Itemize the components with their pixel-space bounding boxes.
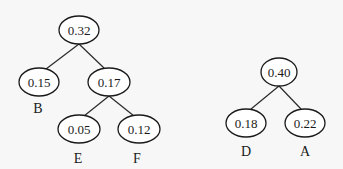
tree-2-edges [251, 86, 301, 109]
node-value: 0.22 [294, 116, 317, 131]
node-value: 0.32 [68, 23, 91, 38]
leaf-symbol-e: E [74, 151, 83, 166]
huffman-forest-diagram: 0.32 0.15 B 0.17 0.05 E 0.12 F 0.40 [0, 0, 343, 169]
edge-017-005 [84, 96, 109, 116]
node-value: 0.05 [68, 122, 91, 137]
node-value: 0.40 [268, 65, 291, 80]
edge-040-018 [251, 86, 279, 109]
edge-017-012 [109, 96, 134, 116]
node-005: 0.05 E [58, 115, 100, 166]
tree-2: 0.40 0.18 D 0.22 A [226, 58, 325, 159]
edge-032-015 [46, 44, 79, 69]
node-value: 0.17 [98, 75, 121, 90]
node-018: 0.18 D [226, 109, 266, 159]
leaf-symbol-b: B [33, 101, 42, 116]
node-value: 0.12 [128, 122, 151, 137]
leaf-symbol-a: A [300, 144, 311, 159]
node-012: 0.12 F [118, 115, 160, 166]
tree-1: 0.32 0.15 B 0.17 0.05 E 0.12 F [19, 16, 160, 166]
node-022: 0.22 A [285, 109, 325, 159]
node-017: 0.17 [88, 68, 130, 96]
node-root-040: 0.40 [261, 58, 297, 86]
edge-040-022 [279, 86, 301, 109]
node-015: 0.15 B [19, 68, 59, 116]
edge-032-017 [79, 44, 104, 68]
leaf-symbol-f: F [133, 151, 141, 166]
node-value: 0.18 [235, 116, 258, 131]
node-value: 0.15 [28, 75, 51, 90]
node-root-032: 0.32 [59, 16, 99, 44]
leaf-symbol-d: D [241, 144, 251, 159]
